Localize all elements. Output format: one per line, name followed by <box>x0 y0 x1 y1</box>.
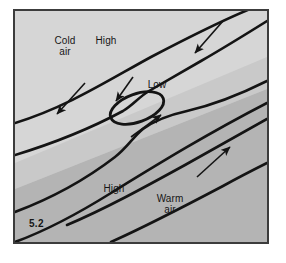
figure-number: 5.2 <box>29 218 44 229</box>
weather-map-diagram <box>15 11 267 242</box>
figure-container: Cold air High Low High Warm air 5.2 <box>0 0 286 263</box>
figure-frame: Cold air High Low High Warm air 5.2 <box>13 9 269 244</box>
